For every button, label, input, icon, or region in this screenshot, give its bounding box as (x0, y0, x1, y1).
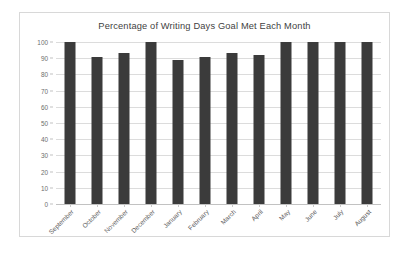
y-axis-tick-mark (50, 42, 53, 43)
bar-slot (327, 42, 354, 204)
x-axis-tick-label: June (303, 208, 318, 223)
bar[interactable] (227, 53, 238, 204)
bar-slot (164, 42, 191, 204)
x-axis-tick-mark (313, 204, 314, 207)
bar[interactable] (281, 42, 292, 204)
chart-figure: Percentage of Writing Days Goal Met Each… (19, 12, 390, 237)
x-axis-tick-mark (178, 204, 179, 207)
y-axis-tick-mark (50, 139, 53, 140)
y-axis-tick-label: 20 (41, 168, 48, 175)
x-axis-tick-mark (70, 204, 71, 207)
bar-slot (110, 42, 137, 204)
y-axis-tick-mark (50, 171, 53, 172)
y-axis-tick-label: 50 (41, 120, 48, 127)
bar-slot (83, 42, 110, 204)
bar-slot (56, 42, 83, 204)
y-axis-tick-mark (50, 58, 53, 59)
y-axis-tick-mark (50, 74, 53, 75)
bar-slot (246, 42, 273, 204)
x-axis-tick-mark (97, 204, 98, 207)
y-axis-tick-label: 10 (41, 184, 48, 191)
bar-slot (137, 42, 164, 204)
bar[interactable] (145, 42, 156, 204)
bar[interactable] (362, 42, 373, 204)
y-axis-tick-mark (50, 123, 53, 124)
x-axis-tick-mark (340, 204, 341, 207)
plot-area (56, 42, 381, 204)
x-axis-tick-label: May (278, 208, 292, 222)
y-axis-tick-label: 80 (41, 71, 48, 78)
bar-slot (354, 42, 381, 204)
bar[interactable] (335, 42, 346, 204)
x-axis-tick-mark (259, 204, 260, 207)
y-axis-tick-mark (50, 155, 53, 156)
x-axis-tick-label: December (130, 208, 156, 234)
y-axis-tick-label: 100 (37, 39, 48, 46)
bar[interactable] (118, 53, 129, 204)
y-axis-tick-label: 0 (44, 201, 48, 208)
bar[interactable] (64, 42, 75, 204)
bar-slot (273, 42, 300, 204)
y-axis-tick-label: 90 (41, 55, 48, 62)
x-axis-tick-mark (367, 204, 368, 207)
x-axis-tick-mark (205, 204, 206, 207)
bars-layer (56, 42, 381, 204)
y-axis: 0102030405060708090100 (20, 42, 53, 204)
x-axis-tick-label: August (353, 208, 372, 227)
y-axis-tick-label: 40 (41, 136, 48, 143)
y-axis-tick-label: 30 (41, 152, 48, 159)
bar[interactable] (172, 60, 183, 204)
y-axis-tick-mark (50, 106, 53, 107)
bar[interactable] (199, 57, 210, 204)
x-axis-tick-label: January (162, 208, 183, 229)
x-axis-tick-label: April (250, 208, 264, 222)
x-axis-tick-mark (232, 204, 233, 207)
y-axis-tick-mark (50, 204, 53, 205)
x-axis: SeptemberOctoberNovemberDecemberJanuaryF… (56, 208, 381, 248)
x-axis-tick-label: July (332, 208, 345, 221)
x-axis-tick-label: February (187, 208, 210, 231)
y-axis-tick-mark (50, 187, 53, 188)
bar-slot (219, 42, 246, 204)
y-axis-tick-label: 70 (41, 87, 48, 94)
bar[interactable] (91, 57, 102, 204)
bar-slot (300, 42, 327, 204)
bar[interactable] (254, 55, 265, 204)
bar-slot (191, 42, 218, 204)
x-axis-tick-label: November (102, 208, 128, 234)
x-axis-tick-mark (151, 204, 152, 207)
x-axis-tick-label: March (219, 208, 237, 226)
x-axis-tick-label: October (80, 208, 101, 229)
y-axis-tick-label: 60 (41, 103, 48, 110)
chart-title: Percentage of Writing Days Goal Met Each… (20, 21, 389, 31)
bar[interactable] (308, 42, 319, 204)
y-axis-tick-mark (50, 90, 53, 91)
x-axis-tick-mark (124, 204, 125, 207)
x-axis-tick-label: September (47, 208, 74, 235)
x-axis-tick-mark (286, 204, 287, 207)
